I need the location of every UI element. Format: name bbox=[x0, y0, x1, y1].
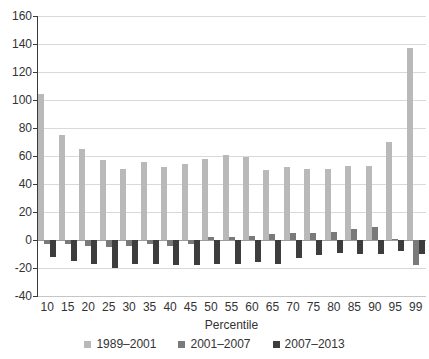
bar-series1-p65 bbox=[263, 170, 269, 240]
gridline bbox=[37, 100, 426, 101]
bar-series1-p45 bbox=[182, 164, 188, 240]
bar-series3-p30 bbox=[132, 240, 138, 264]
bar-series1-p99 bbox=[407, 48, 413, 240]
y-tick-label: 140 bbox=[12, 37, 32, 51]
x-tick-label: 90 bbox=[368, 300, 381, 314]
bar-series3-p25 bbox=[112, 240, 118, 268]
y-tick-mark bbox=[33, 128, 37, 129]
bar-series1-p40 bbox=[161, 167, 167, 240]
bar-series3-p85 bbox=[357, 240, 363, 254]
y-tick-label: 120 bbox=[12, 65, 32, 79]
x-tick-label: 40 bbox=[163, 300, 176, 314]
bar-series1-p10 bbox=[38, 94, 44, 240]
wealth-change-bar-chart: Percentile 1989–20012001–20072007–2013 1… bbox=[0, 0, 429, 359]
bar-series3-p65 bbox=[275, 240, 281, 264]
x-tick-label: 65 bbox=[266, 300, 279, 314]
x-tick-label: 75 bbox=[307, 300, 320, 314]
legend-item-3: 2007–2013 bbox=[273, 337, 345, 351]
bar-series2-p70 bbox=[290, 233, 296, 240]
gridline bbox=[37, 156, 426, 157]
bar-series3-p70 bbox=[296, 240, 302, 258]
bar-series2-p85 bbox=[351, 229, 357, 240]
y-tick-label: -40 bbox=[15, 289, 32, 303]
y-tick-mark bbox=[33, 156, 37, 157]
gridline bbox=[37, 268, 426, 269]
legend-swatch bbox=[178, 341, 185, 348]
bar-series1-p70 bbox=[284, 167, 290, 240]
legend-label: 1989–2001 bbox=[96, 337, 156, 351]
y-tick-label: 80 bbox=[19, 121, 32, 135]
y-axis-spine bbox=[37, 16, 38, 297]
legend-item-1: 1989–2001 bbox=[84, 337, 156, 351]
x-tick-label: 99 bbox=[409, 300, 422, 314]
y-tick-label: 60 bbox=[19, 149, 32, 163]
gridline bbox=[37, 128, 426, 129]
bar-series3-p95 bbox=[398, 240, 404, 251]
gridline bbox=[37, 44, 426, 45]
y-tick-mark bbox=[33, 212, 37, 213]
bar-series3-p55 bbox=[235, 240, 241, 264]
bar-series3-p75 bbox=[316, 240, 322, 255]
bar-series1-p75 bbox=[304, 169, 310, 240]
x-tick-label: 20 bbox=[81, 300, 94, 314]
bar-series2-p90 bbox=[372, 227, 378, 240]
bar-series2-p80 bbox=[331, 232, 337, 240]
x-tick-label: 10 bbox=[41, 300, 54, 314]
y-tick-mark bbox=[33, 240, 37, 241]
y-tick-label: 20 bbox=[19, 205, 32, 219]
y-tick-label: 100 bbox=[12, 93, 32, 107]
x-tick-label: 35 bbox=[143, 300, 156, 314]
bar-series1-p30 bbox=[120, 169, 126, 240]
bar-series3-p99 bbox=[419, 240, 425, 254]
y-tick-label: 40 bbox=[19, 177, 32, 191]
x-tick-label: 55 bbox=[225, 300, 238, 314]
x-tick-label: 80 bbox=[327, 300, 340, 314]
x-tick-label: 70 bbox=[286, 300, 299, 314]
bar-series1-p80 bbox=[325, 169, 331, 240]
y-tick-label: 0 bbox=[25, 233, 32, 247]
gridline bbox=[37, 72, 426, 73]
bar-series1-p50 bbox=[202, 159, 208, 240]
y-tick-mark bbox=[33, 100, 37, 101]
legend-swatch bbox=[273, 341, 280, 348]
x-tick-label: 30 bbox=[122, 300, 135, 314]
x-tick-label: 15 bbox=[61, 300, 74, 314]
bar-series1-p25 bbox=[100, 160, 106, 240]
y-tick-label: -20 bbox=[15, 261, 32, 275]
bar-series3-p60 bbox=[255, 240, 261, 262]
legend-swatch bbox=[84, 341, 91, 348]
plot-area bbox=[37, 16, 426, 296]
bar-series3-p40 bbox=[173, 240, 179, 265]
x-tick-label: 25 bbox=[102, 300, 115, 314]
legend-label: 2001–2007 bbox=[190, 337, 250, 351]
x-tick-label: 45 bbox=[184, 300, 197, 314]
x-tick-label: 50 bbox=[204, 300, 217, 314]
x-tick-label: 85 bbox=[348, 300, 361, 314]
gridline bbox=[37, 296, 426, 297]
x-tick-label: 60 bbox=[245, 300, 258, 314]
y-tick-mark bbox=[33, 44, 37, 45]
x-tick-label: 95 bbox=[389, 300, 402, 314]
bar-series1-p15 bbox=[59, 135, 65, 240]
bar-series1-p60 bbox=[243, 157, 249, 240]
bar-series3-p10 bbox=[50, 240, 56, 257]
bar-series1-p20 bbox=[79, 149, 85, 240]
legend-item-2: 2001–2007 bbox=[178, 337, 250, 351]
y-tick-mark bbox=[33, 72, 37, 73]
y-tick-label: 160 bbox=[12, 9, 32, 23]
bar-series3-p35 bbox=[153, 240, 159, 264]
bar-series1-p95 bbox=[386, 142, 392, 240]
x-axis-title: Percentile bbox=[37, 318, 426, 332]
gridline bbox=[37, 16, 426, 17]
bar-series2-p75 bbox=[310, 233, 316, 240]
y-tick-mark bbox=[33, 16, 37, 17]
bar-series3-p50 bbox=[214, 240, 220, 264]
legend: 1989–20012001–20072007–2013 bbox=[0, 337, 429, 351]
bar-series3-p80 bbox=[337, 240, 343, 253]
bar-series1-p55 bbox=[223, 155, 229, 240]
bar-series3-p20 bbox=[91, 240, 97, 264]
bar-series3-p15 bbox=[71, 240, 77, 261]
y-tick-mark bbox=[33, 184, 37, 185]
bar-series1-p35 bbox=[141, 162, 147, 240]
bar-series3-p45 bbox=[194, 240, 200, 265]
